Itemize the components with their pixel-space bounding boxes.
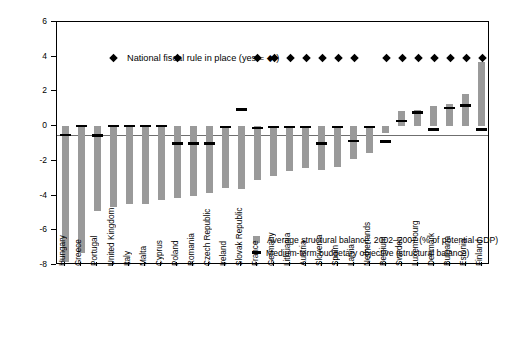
bar-portugal — [94, 126, 101, 211]
fiscal-rule-diamond-bulgaria — [446, 53, 454, 61]
bar-denmark — [430, 106, 437, 126]
mto-marker-slovak-republic — [236, 108, 247, 111]
x-axis-label-czech-republic: Czech Republic — [204, 209, 212, 266]
bar-czech-republic — [206, 126, 213, 193]
fiscal-rule-diamond-estonia — [462, 53, 470, 61]
bar-france — [254, 126, 261, 180]
x-axis-label-bulgaria: Bulgaria — [444, 236, 452, 266]
bar-romania — [190, 126, 197, 196]
x-axis-label-estonia: Estonia — [460, 239, 468, 266]
y-axis-tick-label: -8 — [39, 260, 47, 269]
y-axis: 6420-2-4-6-8 — [0, 21, 56, 264]
x-axis-label-greece: Greece — [75, 239, 83, 266]
bar-slovenia — [318, 126, 325, 170]
x-axis-label-hungary: Hungary — [59, 235, 67, 266]
x-axis-label-spain: Spain — [332, 245, 340, 266]
fiscal-rule-diamond-austria — [302, 53, 310, 61]
bar-cyprus — [158, 126, 165, 200]
bar-germany — [270, 126, 277, 175]
x-axis-label-united-kingdom: United Kingdom — [107, 208, 115, 266]
x-axis-label-denmark: Denmark — [428, 233, 436, 266]
mto-marker-netherlands — [364, 126, 375, 129]
x-axis-label-ireland: Ireland — [220, 241, 228, 266]
bar-spain — [334, 126, 341, 167]
bar-italy — [126, 126, 133, 204]
bar-netherlands — [366, 126, 373, 153]
bar-poland — [174, 126, 181, 198]
y-axis-tick-label: 0 — [42, 121, 47, 130]
bar-latvia — [350, 126, 357, 159]
x-axis-label-slovenia: Slovenia — [316, 235, 324, 266]
fiscal-rule-diamond-lithuania — [286, 53, 294, 61]
mto-marker-hungary — [60, 134, 71, 137]
mto-marker-greece — [76, 125, 87, 128]
mto-marker-romania — [188, 142, 199, 145]
fiscal-rule-diamond-united-kingdom — [109, 53, 117, 61]
bar-slovak-republic — [238, 126, 245, 188]
mto-marker-poland — [172, 142, 183, 145]
mto-marker-slovenia — [316, 142, 327, 145]
x-axis-label-lithuania: Lithuania — [284, 233, 292, 266]
x-axis-label-finland: Finland — [476, 239, 484, 266]
x-axis-label-cyprus: Cyprus — [155, 240, 163, 266]
mto-marker-belgium — [380, 140, 391, 143]
bar-finland — [478, 62, 485, 126]
y-axis-tick-label: -6 — [39, 225, 47, 234]
x-axis-label-belgium: Belgium — [380, 236, 388, 266]
mto-marker-sweden — [396, 120, 407, 123]
mto-marker-austria — [300, 126, 311, 129]
fiscal-rule-diamond-slovenia — [318, 53, 326, 61]
mto-marker-luxembourg — [412, 111, 423, 114]
bar-ireland — [222, 126, 229, 188]
y-axis-tick-label: 6 — [42, 17, 47, 26]
mto-marker-czech-republic — [204, 142, 215, 145]
mto-marker-france — [252, 127, 263, 130]
bar-estonia — [462, 94, 469, 126]
mto-marker-italy — [124, 125, 135, 128]
chart-figure: 6420-2-4-6-8 National fiscal rule in pla… — [0, 0, 506, 352]
x-axis-label-portugal: Portugal — [91, 236, 99, 267]
fiscal-rule-diamond-latvia — [350, 53, 358, 61]
mto-marker-denmark — [428, 128, 439, 131]
mto-marker-lithuania — [284, 126, 295, 129]
bar-united-kingdom — [110, 126, 117, 207]
fiscal-rule-diamond-sweden — [398, 53, 406, 61]
bar-belgium — [382, 126, 389, 133]
mto-marker-germany — [268, 126, 279, 129]
x-axis-label-france: France — [252, 241, 260, 266]
y-axis-tick-label: -4 — [39, 190, 47, 199]
x-axis-label-netherlands: Netherlands — [364, 222, 372, 266]
fiscal-rule-diamond-spain — [334, 53, 342, 61]
y-axis-tick-mark — [51, 264, 56, 265]
mto-marker-ireland — [220, 126, 231, 129]
mto-marker-finland — [476, 128, 487, 131]
y-axis-tick-label: 2 — [42, 86, 47, 95]
x-axis-label-sweden: Sweden — [396, 236, 404, 266]
bar-austria — [302, 126, 309, 168]
x-axis-label-italy: Italy — [123, 251, 131, 266]
x-axis-label-austria: Austria — [300, 241, 308, 266]
mto-marker-united-kingdom — [108, 125, 119, 128]
x-axis-label-romania: Romania — [188, 233, 196, 266]
fiscal-rule-diamond-denmark — [430, 53, 438, 61]
plot-area: National fiscal rule in place (yes = ◆ )… — [56, 21, 489, 264]
fiscal-rule-diamond-luxembourg — [414, 53, 422, 61]
fiscal-rule-diamond-belgium — [382, 53, 390, 61]
mto-marker-spain — [332, 126, 343, 129]
x-axis-label-germany: Germany — [268, 232, 276, 266]
x-axis-label-luxembourg: Luxembourg — [412, 220, 420, 266]
mto-marker-estonia — [460, 104, 471, 107]
mto-marker-bulgaria — [444, 107, 455, 110]
bar-greece — [78, 126, 85, 253]
mto-marker-cyprus — [156, 125, 167, 128]
bar-lithuania — [286, 126, 293, 171]
mto-marker-latvia — [348, 140, 359, 143]
x-axis-label-poland: Poland — [171, 241, 179, 267]
fiscal-rule-diamond-finland — [478, 53, 486, 61]
x-axis-label-malta: Malta — [139, 246, 147, 266]
y-axis-tick-label: -2 — [39, 155, 47, 164]
bar-malta — [142, 126, 149, 204]
mto-marker-portugal — [92, 134, 103, 137]
x-axis-label-slovak-republic: Slovak Republic — [236, 207, 244, 266]
x-axis-labels: HungaryGreecePortugalUnited KingdomItaly… — [56, 266, 489, 352]
